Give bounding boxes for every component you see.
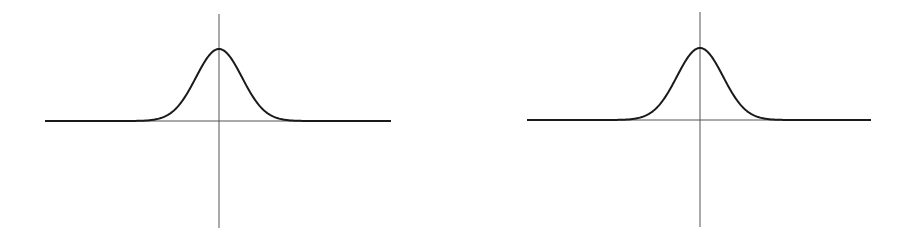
figure-canvas — [0, 0, 910, 242]
gaussian-plot-right — [527, 12, 871, 227]
gaussian-curve — [527, 48, 871, 120]
gaussian-plot-left — [45, 14, 391, 228]
gaussian-curve — [45, 49, 391, 121]
